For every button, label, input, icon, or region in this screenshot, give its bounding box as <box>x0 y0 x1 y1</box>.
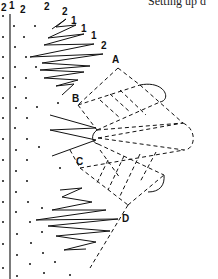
svg-text:1: 1 <box>71 15 77 26</box>
svg-text:2: 2 <box>44 1 50 12</box>
pin-holes-left <box>2 15 71 277</box>
svg-text:1: 1 <box>81 23 87 34</box>
zigzag-threads <box>30 19 118 250</box>
svg-text:1: 1 <box>91 30 97 41</box>
svg-text:2: 2 <box>101 40 107 51</box>
label-b: B <box>72 93 79 104</box>
label-d: D <box>122 213 129 224</box>
lace-pricking-diagram: 2 1 2 2 2 1 1 1 2 A B C D <box>0 0 218 279</box>
svg-text:2: 2 <box>1 2 7 13</box>
label-a: A <box>112 54 119 65</box>
thread-count-labels: 2 1 2 2 2 1 1 1 2 <box>1 0 107 51</box>
headside-lobes <box>93 84 194 192</box>
svg-text:2: 2 <box>62 6 68 17</box>
ground-net <box>70 68 184 268</box>
svg-text:2: 2 <box>20 4 26 15</box>
svg-text:1: 1 <box>9 0 15 11</box>
point-labels: A B C D <box>72 54 129 224</box>
label-c: C <box>76 156 83 167</box>
